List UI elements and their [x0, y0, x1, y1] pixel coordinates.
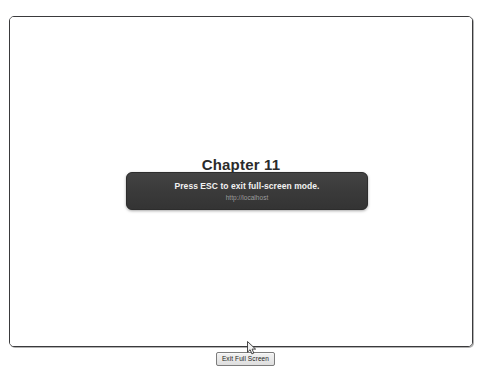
exit-fullscreen-bar: Exit Full Screen — [0, 352, 491, 366]
document-canvas: Chapter 11 Press ESC to exit full-screen… — [10, 17, 472, 346]
fullscreen-toast-message: Press ESC to exit full-screen mode. — [175, 181, 320, 192]
exit-full-screen-button[interactable]: Exit Full Screen — [216, 352, 275, 366]
fullscreen-toast-url: http://localhost — [226, 193, 269, 203]
browser-page-frame: Chapter 11 Press ESC to exit full-screen… — [9, 16, 473, 347]
fullscreen-notification-toast: Press ESC to exit full-screen mode. http… — [126, 172, 368, 210]
